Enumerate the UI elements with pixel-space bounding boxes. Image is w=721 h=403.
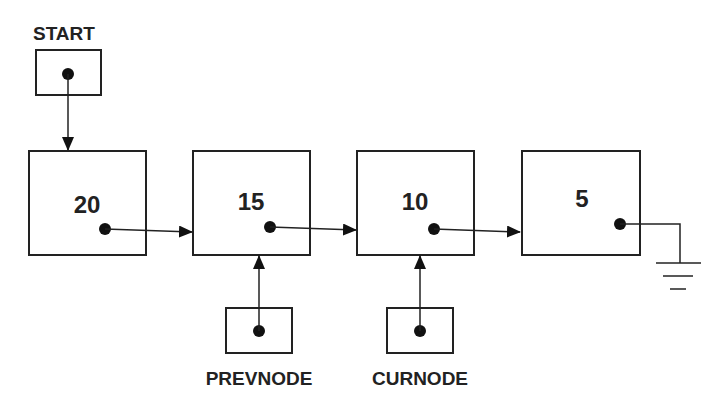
curnode-label: CURNODE <box>372 368 468 389</box>
prevnode-pointer: PREVNODE <box>206 256 313 389</box>
node-value: 20 <box>74 191 101 218</box>
start-label: START <box>33 23 95 44</box>
node-5: 5 <box>522 151 701 289</box>
ground-null-icon <box>656 263 701 289</box>
linked-list-diagram: START 20 15 10 5 <box>0 0 721 403</box>
node-value: 15 <box>238 188 265 215</box>
node-value: 5 <box>575 185 588 212</box>
prevnode-label: PREVNODE <box>206 368 313 389</box>
curnode-pointer: CURNODE <box>372 256 468 389</box>
node-value: 10 <box>402 188 429 215</box>
start-pointer: START <box>33 23 101 150</box>
node-20: 20 <box>29 151 192 255</box>
node-15: 15 <box>193 151 356 255</box>
node-10: 10 <box>357 151 520 255</box>
